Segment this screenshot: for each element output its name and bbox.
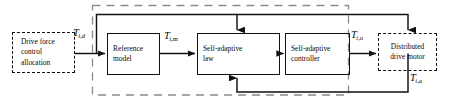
signal-subscript: i,d [78,32,85,39]
block-diagram: Drive force control allocation Reference… [0,0,450,108]
block-self-adaptive-controller: Self-adaptive controller [285,33,350,75]
block-distributed-drive-motor: Distributed drive motor [378,33,437,71]
block-self-adaptive-law: Self-adaptive law [197,33,280,75]
signal-subscript: i,m [169,35,178,42]
block-drive-force-control-allocation: Drive force control allocation [12,32,75,73]
block-label-line: model [113,54,131,64]
block-label-line: Reference [113,44,143,54]
block-label-line: Distributed [391,42,424,52]
signal-label-t-i-u: Ti,u [351,29,364,40]
block-label-line: controller [291,54,320,64]
block-label-line: control [21,47,42,57]
block-reference-model: Reference model [107,33,160,75]
signal-subscript: i,a [415,77,422,84]
block-label-line: Self-adaptive [291,44,330,54]
block-label-line: allocation [21,58,50,68]
block-label-line: drive motor [390,52,425,62]
signal-label-t-i-a: Ti,a [410,72,423,83]
signal-subscript: i,u [356,34,363,41]
block-label-line: Self-adaptive [203,44,242,54]
signal-label-t-i-d: Ti,d [73,27,86,38]
signal-label-t-i-m: Ti,m [164,30,178,41]
block-label-line: law [203,54,214,64]
block-label-line: Drive force [21,37,55,47]
